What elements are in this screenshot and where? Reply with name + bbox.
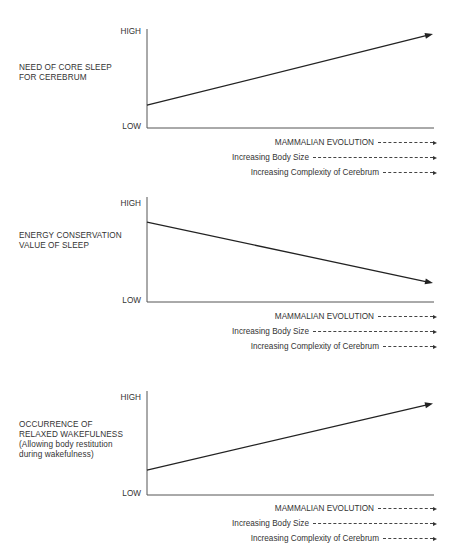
dashed-line-icon <box>313 523 433 524</box>
dashed-line-icon <box>378 508 433 509</box>
legend-label: Increasing Complexity of Cerebrum <box>251 531 379 545</box>
plot-area <box>0 0 457 545</box>
chart-panel-relaxed-wakefulness: OCCURRENCE OF RELAXED WAKEFULNESS (Allow… <box>0 0 457 545</box>
arrow-right-icon <box>433 507 437 511</box>
arrow-right-icon <box>433 522 437 526</box>
legend-label: Increasing Body Size <box>232 516 309 531</box>
legend-row: Increasing Complexity of Cerebrum <box>232 531 437 545</box>
arrow-right-icon <box>433 537 437 541</box>
trend-arrowhead <box>425 402 433 408</box>
legend-row: MAMMALIAN EVOLUTION <box>232 501 437 516</box>
trend-line <box>147 405 428 470</box>
legend-label: MAMMALIAN EVOLUTION <box>275 501 374 516</box>
x-axis-legend: MAMMALIAN EVOLUTIONIncreasing Body SizeI… <box>232 501 437 545</box>
dashed-line-icon <box>383 538 433 539</box>
legend-row: Increasing Body Size <box>232 516 437 531</box>
